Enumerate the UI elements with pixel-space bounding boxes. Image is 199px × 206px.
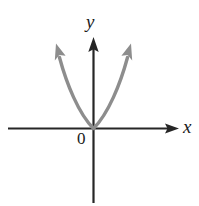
y-axis-label: y — [86, 12, 94, 31]
parabola-figure: y x 0 — [0, 0, 199, 206]
graph-canvas — [0, 0, 199, 206]
x-axis-label: x — [183, 117, 191, 136]
origin-label: 0 — [77, 130, 86, 147]
